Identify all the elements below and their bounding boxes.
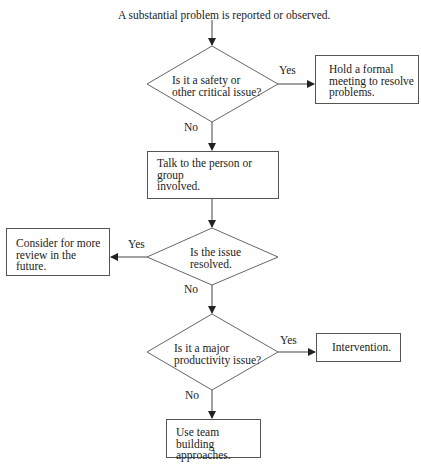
decision-safety-yes-label: Yes <box>279 64 296 76</box>
decision-productivity-yes-label: Yes <box>280 334 297 346</box>
decision-resolved-text: Is the issue resolved. <box>190 246 241 270</box>
action-formal-meeting: Hold a formal meeting to resolve problem… <box>315 55 419 104</box>
decision-resolved-yes-label: Yes <box>128 238 145 250</box>
decision-safety-text: Is it a safety or other critical issue? <box>172 74 261 98</box>
action-team-building: Use team building approaches. <box>166 419 261 458</box>
decision-resolved-no-label: No <box>184 283 198 295</box>
action-consider-review: Consider for more review in the future. <box>6 228 110 276</box>
action-formal-meeting-text: Hold a formal meeting to resolve problem… <box>329 64 414 99</box>
action-consider-review-text: Consider for more review in the future. <box>16 238 109 273</box>
start-text: A substantial problem is reported or obs… <box>118 9 330 21</box>
action-team-building-text: Use team building approaches. <box>176 427 260 462</box>
decision-safety-no-label: No <box>184 121 198 133</box>
action-talk-to-person-text: Talk to the person or group involved. <box>157 158 278 193</box>
action-intervention-text: Intervention. <box>332 342 391 354</box>
decision-productivity-text: Is it a major productivity issue? <box>174 342 261 366</box>
decision-productivity-no-label: No <box>185 389 199 401</box>
action-talk-to-person: Talk to the person or group involved. <box>147 151 279 199</box>
action-intervention: Intervention. <box>316 333 401 362</box>
